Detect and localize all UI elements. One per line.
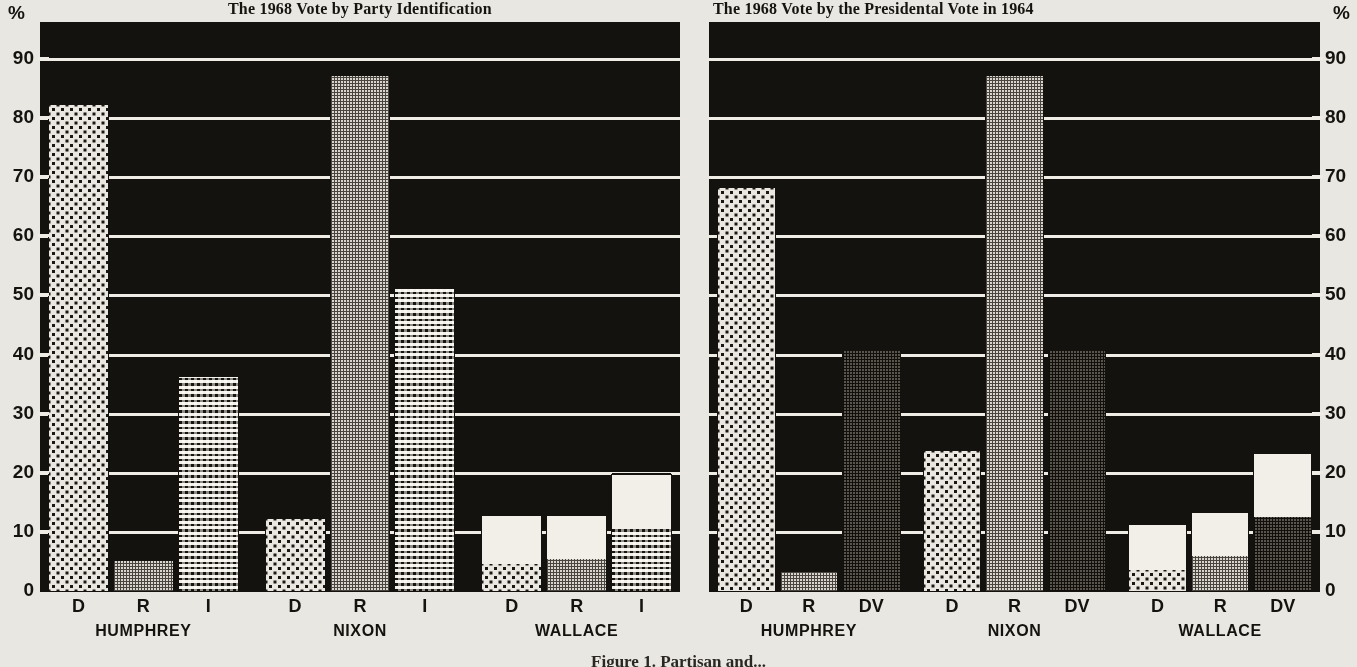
- y-tick-right-90: [1312, 57, 1323, 60]
- bar-right-nixon-d: [923, 450, 982, 592]
- category-label-right-nixon-r: R: [1008, 596, 1021, 617]
- bar-left-humphrey-i: [178, 376, 239, 592]
- bar-right-wallace-d: [1128, 524, 1187, 592]
- bar-segment-lower: [1129, 570, 1186, 591]
- category-label-right-wallace-dv: DV: [1270, 596, 1295, 617]
- y-tick-label-right-30: 30: [1325, 403, 1357, 422]
- bar-left-nixon-i: [394, 288, 455, 592]
- group-label-left-humphrey: HUMPHREY: [95, 622, 191, 640]
- bar-segment-lower: [1254, 517, 1311, 591]
- bar-right-humphrey-r: [780, 571, 839, 592]
- y-tick-label-right-50: 50: [1325, 284, 1357, 303]
- category-label-left-nixon-i: I: [422, 596, 427, 617]
- category-label-left-nixon-d: D: [289, 596, 302, 617]
- category-label-right-wallace-d: D: [1151, 596, 1164, 617]
- bar-right-wallace-r: [1191, 512, 1250, 592]
- category-label-right-nixon-d: D: [945, 596, 958, 617]
- bars-right: [709, 22, 1320, 592]
- bar-left-humphrey-r: [113, 560, 174, 593]
- bar-segment: [718, 188, 775, 591]
- group-label-right-humphrey: HUMPHREY: [761, 622, 857, 640]
- bar-left-nixon-r: [330, 75, 391, 592]
- y-tick-left-80: [38, 116, 49, 119]
- category-label-left-nixon-r: R: [354, 596, 367, 617]
- bar-segment: [49, 105, 108, 591]
- y-tick-label-left-80: 80: [0, 107, 34, 126]
- y-tick-label-right-80: 80: [1325, 107, 1357, 126]
- y-tick-label-left-60: 60: [0, 225, 34, 244]
- plot-area-right: [709, 22, 1320, 592]
- bars-left: [40, 22, 680, 592]
- y-tick-label-right-60: 60: [1325, 225, 1357, 244]
- bar-segment: [331, 76, 390, 591]
- chart-titles-row: % The 1968 Vote by Party Identification …: [0, 0, 1357, 22]
- bar-left-wallace-i: [611, 474, 672, 592]
- bar-segment: [395, 289, 454, 591]
- group-label-right-wallace: WALLACE: [1179, 622, 1262, 640]
- category-label-left-wallace-i: I: [639, 596, 644, 617]
- category-label-left-humphrey-d: D: [72, 596, 85, 617]
- y-tick-right-30: [1312, 412, 1323, 415]
- bar-segment: [781, 572, 838, 591]
- category-label-right-humphrey-d: D: [740, 596, 753, 617]
- bar-segment: [843, 351, 900, 591]
- y-tick-left-10: [38, 530, 49, 533]
- bar-right-nixon-dv: [1048, 350, 1107, 592]
- bar-right-humphrey-d: [717, 187, 776, 592]
- category-label-left-humphrey-i: I: [206, 596, 211, 617]
- y-tick-left-40: [38, 353, 49, 356]
- percent-symbol-right: %: [1333, 2, 1350, 24]
- bar-right-wallace-dv: [1253, 453, 1312, 592]
- y-tick-left-60: [38, 234, 49, 237]
- plot-area-left: [40, 22, 680, 592]
- y-tick-label-right-90: 90: [1325, 48, 1357, 67]
- y-tick-label-right-70: 70: [1325, 166, 1357, 185]
- bar-segment-lower: [1192, 556, 1249, 591]
- y-tick-left-30: [38, 412, 49, 415]
- bar-segment-upper: [547, 514, 606, 558]
- bar-segment-lower: [612, 529, 671, 591]
- bar-left-wallace-d: [481, 515, 542, 592]
- y-tick-label-left-70: 70: [0, 166, 34, 185]
- y-tick-label-right-10: 10: [1325, 521, 1357, 540]
- bar-segment: [114, 561, 173, 592]
- bar-segment: [266, 519, 325, 591]
- bar-right-humphrey-dv: [842, 350, 901, 592]
- bar-left-humphrey-d: [48, 104, 109, 592]
- bar-segment-lower: [482, 564, 541, 591]
- category-label-left-humphrey-r: R: [137, 596, 150, 617]
- category-label-right-humphrey-dv: DV: [859, 596, 884, 617]
- y-tick-right-20: [1312, 471, 1323, 474]
- group-label-left-wallace: WALLACE: [535, 622, 618, 640]
- y-tick-left-50: [38, 293, 49, 296]
- chart-title-right: The 1968 Vote by the Presidental Vote in…: [713, 0, 1034, 18]
- y-tick-label-left-90: 90: [0, 48, 34, 67]
- y-tick-right-40: [1312, 353, 1323, 356]
- y-tick-label-left-0: 0: [0, 580, 34, 599]
- bar-segment: [1049, 351, 1106, 591]
- y-tick-label-left-40: 40: [0, 344, 34, 363]
- y-tick-right-10: [1312, 530, 1323, 533]
- bar-left-nixon-d: [265, 518, 326, 592]
- y-tick-label-left-30: 30: [0, 403, 34, 422]
- y-tick-label-right-0: 0: [1325, 580, 1357, 599]
- percent-symbol-left: %: [8, 2, 25, 24]
- y-tick-left-70: [38, 175, 49, 178]
- chart-title-left: The 1968 Vote by Party Identification: [228, 0, 492, 18]
- category-label-right-wallace-r: R: [1214, 596, 1227, 617]
- y-tick-right-70: [1312, 175, 1323, 178]
- y-tick-left-20: [38, 471, 49, 474]
- bar-segment: [986, 76, 1043, 591]
- bar-segment-upper: [612, 473, 671, 529]
- category-label-right-humphrey-r: R: [802, 596, 815, 617]
- category-label-left-wallace-r: R: [570, 596, 583, 617]
- y-tick-label-right-40: 40: [1325, 344, 1357, 363]
- bar-segment-upper: [1129, 523, 1186, 570]
- bar-left-wallace-r: [546, 515, 607, 592]
- y-tick-label-right-20: 20: [1325, 462, 1357, 481]
- category-label-left-wallace-d: D: [505, 596, 518, 617]
- y-tick-label-left-10: 10: [0, 521, 34, 540]
- bar-segment: [924, 451, 981, 591]
- bar-segment-upper: [1254, 452, 1311, 517]
- figure-caption: Figure 1. Partisan and...: [0, 652, 1357, 667]
